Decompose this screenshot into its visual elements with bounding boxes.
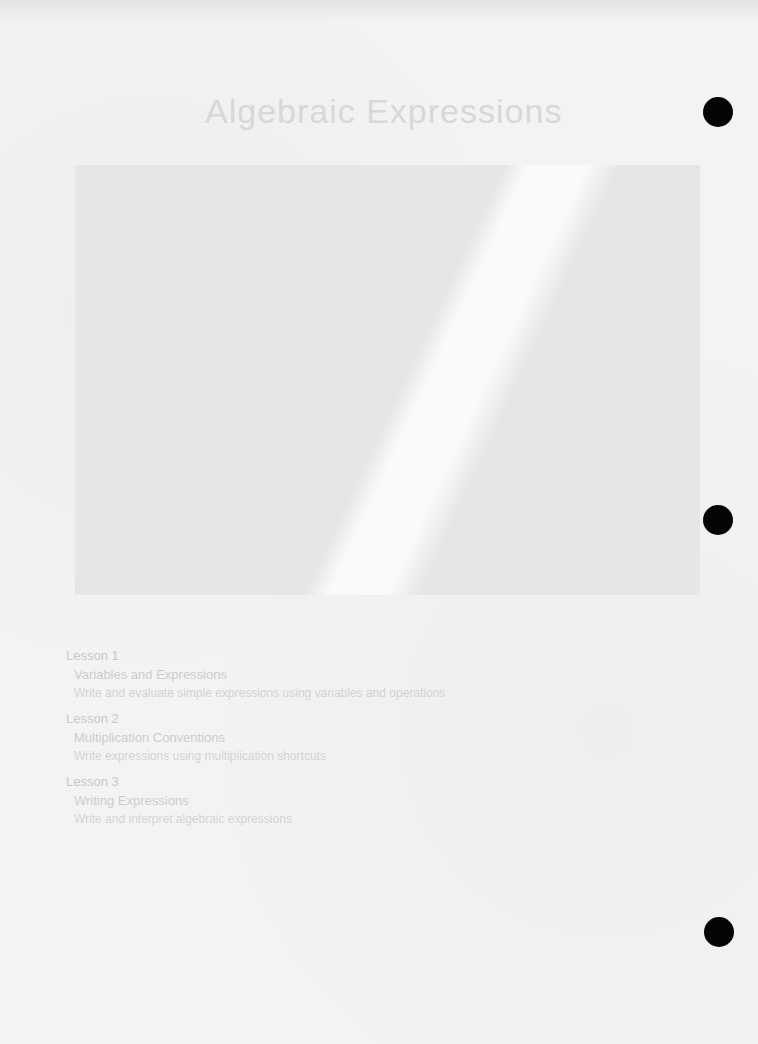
lesson-heading: Lesson 3 <box>66 772 686 791</box>
lesson-item: Lesson 2 Multiplication Conventions Writ… <box>66 709 686 766</box>
binder-hole-top <box>703 97 733 127</box>
lesson-description: Write expressions using multiplication s… <box>66 747 686 766</box>
lesson-title: Writing Expressions <box>66 791 686 810</box>
lesson-description: Write and evaluate simple expressions us… <box>66 684 686 703</box>
faded-photo <box>75 165 700 595</box>
binder-hole-bottom <box>704 917 734 947</box>
lesson-item: Lesson 3 Writing Expressions Write and i… <box>66 772 686 829</box>
lesson-heading: Lesson 1 <box>66 646 686 665</box>
lesson-list: Lesson 1 Variables and Expressions Write… <box>66 646 686 835</box>
lesson-heading: Lesson 2 <box>66 709 686 728</box>
lesson-title: Multiplication Conventions <box>66 728 686 747</box>
lesson-title: Variables and Expressions <box>66 665 686 684</box>
lesson-description: Write and interpret algebraic expression… <box>66 810 686 829</box>
lesson-item: Lesson 1 Variables and Expressions Write… <box>66 646 686 703</box>
page-title: Algebraic Expressions <box>205 92 562 131</box>
scan-top-edge <box>0 0 758 22</box>
binder-hole-middle <box>703 505 733 535</box>
